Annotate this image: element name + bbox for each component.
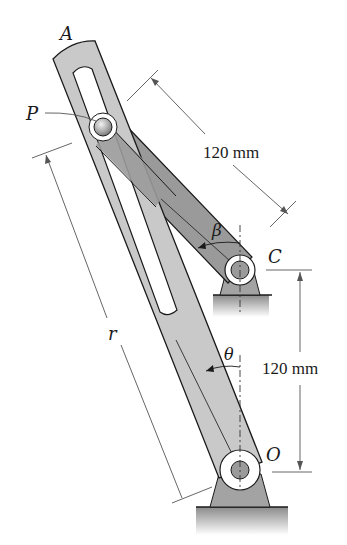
dimension-vertical-label: 120 mm — [262, 359, 318, 378]
label-r: r — [108, 323, 118, 344]
pin-p — [89, 113, 117, 141]
ground-hatch-o — [196, 507, 288, 535]
label-p: P — [25, 103, 39, 124]
dimension-crank-label: 120 mm — [203, 143, 259, 162]
label-c: C — [268, 246, 282, 267]
ground-hatch-c — [213, 295, 269, 317]
mechanism-diagram: β θ 120 mm 120 mm r A P C O — [0, 0, 347, 545]
label-beta: β — [211, 220, 222, 240]
label-theta: θ — [224, 345, 234, 364]
label-o: O — [266, 444, 281, 465]
label-a: A — [58, 23, 73, 44]
